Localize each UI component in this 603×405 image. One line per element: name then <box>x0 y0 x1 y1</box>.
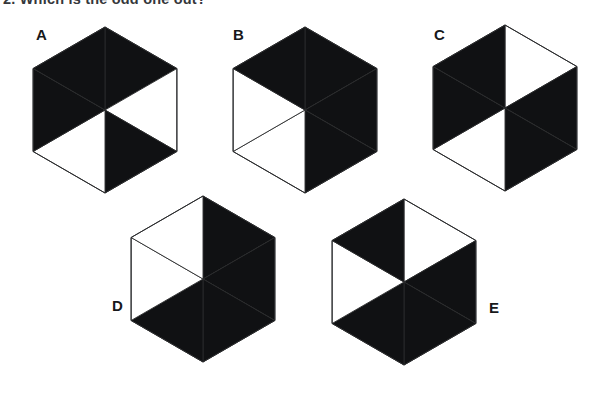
figure-label-c: C <box>434 26 445 43</box>
figure-a[interactable]: A <box>33 26 177 193</box>
figure-c[interactable]: C <box>433 25 577 191</box>
figure-label-e: E <box>489 299 499 316</box>
figure-d[interactable]: D <box>112 196 275 362</box>
figures-canvas: ABCDE <box>0 0 603 405</box>
puzzle-page: 2. Which is the odd one out? ABCDE <box>0 0 603 405</box>
figure-e[interactable]: E <box>332 199 499 365</box>
figure-label-d: D <box>112 297 123 314</box>
figure-label-a: A <box>36 26 47 43</box>
figure-label-b: B <box>233 26 244 43</box>
figure-b[interactable]: B <box>233 26 377 193</box>
